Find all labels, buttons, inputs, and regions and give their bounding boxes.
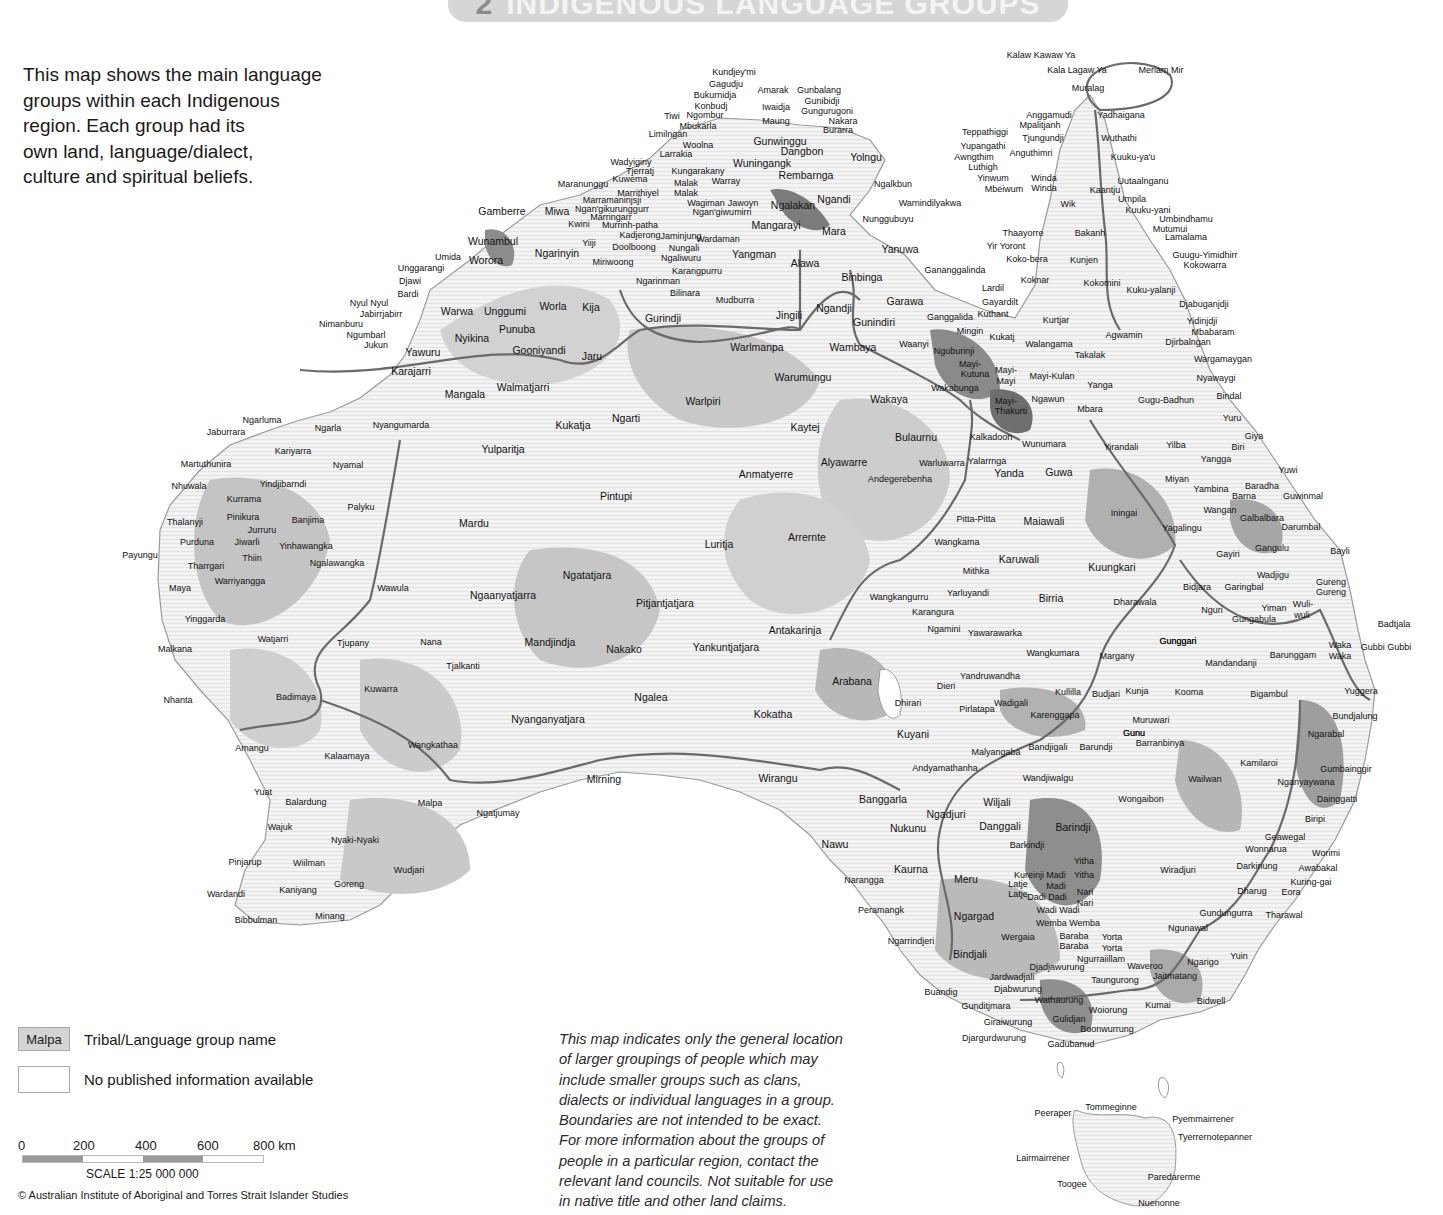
language-group-label: Badtjala [1378, 620, 1411, 629]
king-island [1057, 1062, 1064, 1078]
language-group-label: Wuli- [1293, 600, 1313, 609]
language-group-label: Kuuku-ya'u [1111, 153, 1156, 162]
language-group-label: Mpalitjanh [1019, 121, 1060, 130]
language-group-label: Ngalkbun [874, 180, 912, 189]
scale-tick: 400 [135, 1138, 157, 1153]
language-group-label: Kokowarra [1183, 261, 1226, 270]
language-group-label: Gamberre [478, 206, 525, 217]
language-group-label: Bandjigali [1028, 743, 1067, 752]
language-group-label: Dhirari [895, 699, 922, 708]
language-group-label: Narangga [844, 876, 884, 885]
language-group-label: Yanda [994, 468, 1024, 479]
language-group-label: Nguburinji [934, 347, 975, 356]
language-group-label: Giraiwurung [984, 1018, 1033, 1027]
language-group-label: Gundungurra [1199, 909, 1252, 918]
language-group-label: Nuenonne [1138, 1199, 1180, 1208]
language-group-label: Tjalkanti [446, 662, 480, 671]
language-group-label: Worimi [1312, 849, 1340, 858]
language-group-label: Gungabula [1232, 615, 1276, 624]
language-group-label: Baraba [1059, 942, 1088, 951]
language-group-label: Wailwan [1188, 775, 1222, 784]
language-group-label: Wongaibon [1118, 795, 1163, 804]
language-group-label: Tharrgari [188, 562, 225, 571]
language-group-label: Djawi [399, 277, 421, 286]
language-group-label: Bukurnidja [694, 91, 737, 100]
language-group-label: Tyerrernotepanner [1178, 1133, 1252, 1142]
language-group-label: Latje [1008, 890, 1028, 899]
language-group-label: Yangman [732, 249, 776, 260]
scale-graphic [22, 1155, 264, 1163]
language-group-label: Wadjigu [1257, 571, 1289, 580]
language-group-label: Iningai [1111, 509, 1138, 518]
language-group-label: Malak [674, 179, 698, 188]
language-group-label: Ngalawangka [310, 559, 365, 568]
language-group-label: Doolboong [612, 243, 656, 252]
language-group-label: Madi [1046, 882, 1066, 891]
language-group-label: Nhanta [163, 696, 192, 705]
language-group-label: Baradha [1245, 482, 1279, 491]
language-group-label: Woiorung [1089, 1006, 1127, 1015]
language-group-label: Kuku-yalanji [1126, 286, 1175, 295]
language-group-label: Iwaidja [762, 103, 790, 112]
language-group-label: Wangkangurru [870, 593, 929, 602]
language-group-label: Yinwum [977, 174, 1009, 183]
language-group-label: Yadhaigana [1097, 111, 1144, 120]
language-group-label: Yorta [1102, 944, 1123, 953]
language-group-label: Yir Yoront [987, 242, 1026, 251]
language-group-label: Umbindhamu [1159, 215, 1213, 224]
language-group-label: Amarak [757, 86, 788, 95]
language-group-label: Agwamin [1105, 331, 1142, 340]
language-group-label: Miwa [545, 206, 570, 217]
language-group-label: Barindji [1055, 822, 1090, 833]
language-group-label: Wangkama [934, 538, 979, 547]
language-group-label: Larrakia [660, 150, 693, 159]
language-group-label: Wangkathaa [408, 741, 458, 750]
language-group-label: Mandandanji [1205, 659, 1257, 668]
language-group-label: Yiiji [582, 239, 596, 248]
disclaimer-line: dialects or individual languages in a gr… [559, 1090, 879, 1110]
language-group-label: Walmatjarri [497, 382, 550, 393]
scale-tick: 0 [18, 1138, 25, 1153]
language-group-label: Ngalakan [771, 200, 815, 211]
language-group-label: Kala Lagaw Ya [1047, 66, 1107, 75]
language-group-label: Mardu [459, 518, 489, 529]
language-group-label: Barna [1232, 492, 1256, 501]
language-group-label: Kaurna [894, 864, 928, 875]
intro-line: own land, language/dialect, [23, 139, 403, 165]
language-group-label: Winda [1031, 184, 1057, 193]
language-group-label: Pitta-Pitta [956, 515, 995, 524]
language-group-label: Worla [539, 301, 566, 312]
language-group-label: Gunindiri [853, 317, 895, 328]
language-group-label: Gadubanud [1047, 1040, 1094, 1049]
language-group-label: Jingili [776, 310, 802, 321]
language-group-label: Danggali [979, 821, 1020, 832]
language-group-label: Jabirrjabirr [360, 310, 403, 319]
language-group-label: Tommeginne [1085, 1103, 1137, 1112]
language-group-label: Buandig [924, 988, 957, 997]
language-group-label: Anggamudi [1026, 111, 1072, 120]
language-group-label: Biri [1232, 443, 1245, 452]
language-group-label: Guwinmal [1283, 492, 1323, 501]
language-group-label: Nyamal [333, 461, 364, 470]
language-group-label: Ngarluma [242, 416, 281, 425]
language-group-label: Warlmanpa [730, 342, 783, 353]
tasmania-outline [1073, 1110, 1176, 1206]
language-group-label: Mirning [587, 774, 621, 785]
language-group-label: Nawu [822, 839, 849, 850]
language-group-label: Kariyarra [275, 447, 312, 456]
language-group-label: Takalak [1075, 351, 1106, 360]
language-group-label: Purduna [180, 538, 214, 547]
language-group-label: Wunumara [1022, 440, 1066, 449]
language-group-label: Gurindji [645, 313, 681, 324]
language-group-label: Nyul Nyul [350, 299, 389, 308]
language-group-label: Djabwurung [994, 985, 1042, 994]
language-group-label: Wargamaygan [1194, 355, 1252, 364]
language-group-label: Martuthunira [181, 460, 232, 469]
language-group-label: Dharawala [1113, 598, 1156, 607]
language-group-label: Yarluyandi [947, 589, 989, 598]
language-group-label: Alawa [791, 258, 820, 269]
language-group-label: Yitha [1074, 871, 1094, 880]
language-group-label: Bayli [1330, 547, 1350, 556]
language-group-label: Gayardilt [982, 298, 1018, 307]
language-group-label: Tiwi [664, 112, 680, 121]
